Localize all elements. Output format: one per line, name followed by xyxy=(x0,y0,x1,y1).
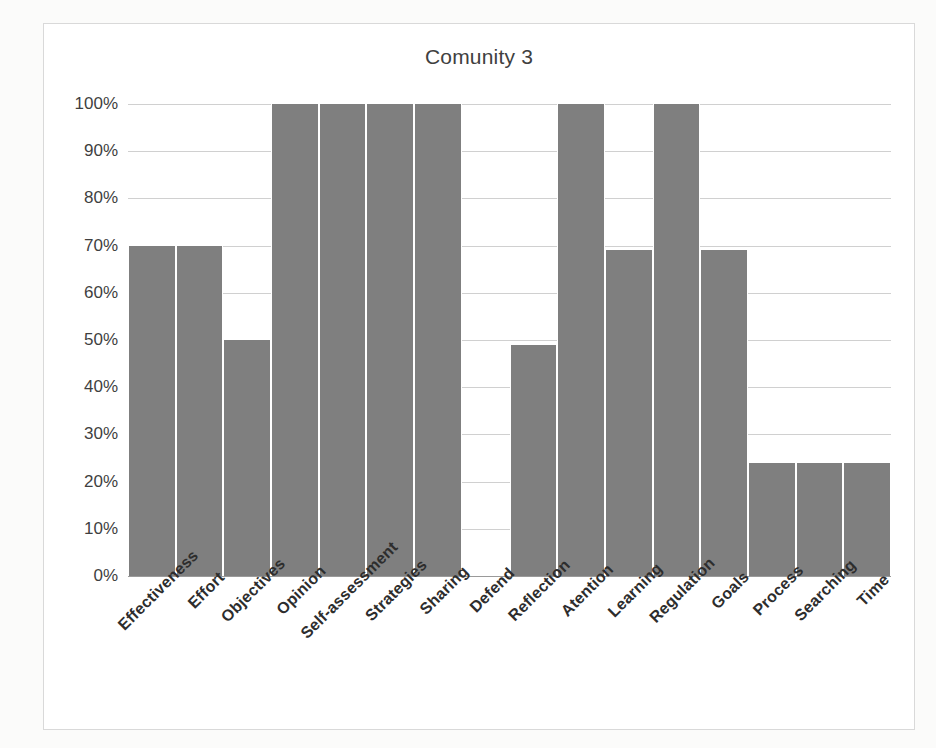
y-axis-tick-label: 30% xyxy=(48,424,118,444)
bar xyxy=(366,104,414,576)
bar xyxy=(748,463,796,576)
x-label-slot: Sharing xyxy=(414,580,462,730)
bar xyxy=(128,246,176,576)
x-label-slot: Searching xyxy=(796,580,844,730)
bar-slot xyxy=(796,104,844,576)
bar-slot xyxy=(557,104,605,576)
x-label-slot: Atention xyxy=(557,580,605,730)
y-axis-tick-label: 80% xyxy=(48,188,118,208)
y-axis-tick-label: 20% xyxy=(48,472,118,492)
bar-slot xyxy=(700,104,748,576)
bar xyxy=(557,104,605,576)
chart-title: Comunity 3 xyxy=(44,45,914,69)
x-axis-labels: EffectivenessEffortObjectivesOpinionSelf… xyxy=(128,580,891,730)
bar-slot xyxy=(366,104,414,576)
y-axis-tick-label: 90% xyxy=(48,141,118,161)
x-label-slot: Opinion xyxy=(271,580,319,730)
x-label-slot: Effectiveness xyxy=(128,580,176,730)
y-axis-tick-label: 60% xyxy=(48,283,118,303)
bar-slot xyxy=(223,104,271,576)
x-label-slot: Process xyxy=(748,580,796,730)
y-axis-tick-label: 70% xyxy=(48,236,118,256)
x-label-slot: Self-assessment xyxy=(319,580,367,730)
chart-frame: Comunity 3 100%90%80%70%60%50%40%30%20%1… xyxy=(43,23,915,730)
bar xyxy=(223,340,271,576)
bar-slot xyxy=(843,104,891,576)
plot-area: 100%90%80%70%60%50%40%30%20%10%0% xyxy=(128,104,891,576)
bar xyxy=(319,104,367,576)
y-axis-tick-label: 0% xyxy=(48,566,118,586)
bar xyxy=(796,463,844,576)
x-label-slot: Regulation xyxy=(653,580,701,730)
bar xyxy=(414,104,462,576)
x-label-slot: Strategies xyxy=(366,580,414,730)
x-label-slot: Effort xyxy=(176,580,224,730)
y-axis-tick-label: 10% xyxy=(48,519,118,539)
bar xyxy=(653,104,701,576)
bar xyxy=(700,250,748,576)
bar-slot xyxy=(414,104,462,576)
bar-slot xyxy=(128,104,176,576)
bar xyxy=(176,246,224,576)
page-background: Comunity 3 100%90%80%70%60%50%40%30%20%1… xyxy=(0,0,936,748)
y-axis-tick-label: 50% xyxy=(48,330,118,350)
x-label-slot: Objectives xyxy=(223,580,271,730)
x-label-slot: Defend xyxy=(462,580,510,730)
bar xyxy=(605,250,653,576)
x-label-slot: Learning xyxy=(605,580,653,730)
bar-slot xyxy=(462,104,510,576)
bar-slot xyxy=(510,104,558,576)
y-axis-tick-label: 40% xyxy=(48,377,118,397)
bar-slot xyxy=(605,104,653,576)
bar xyxy=(510,345,558,576)
bar-series xyxy=(128,104,891,576)
x-label-slot: Goals xyxy=(700,580,748,730)
bar-slot xyxy=(653,104,701,576)
x-label-slot: Reflection xyxy=(510,580,558,730)
bar-slot xyxy=(748,104,796,576)
bar xyxy=(271,104,319,576)
bar-slot xyxy=(271,104,319,576)
bar-slot xyxy=(319,104,367,576)
bar-slot xyxy=(176,104,224,576)
y-axis-tick-label: 100% xyxy=(48,94,118,114)
x-label-slot: Time xyxy=(843,580,891,730)
